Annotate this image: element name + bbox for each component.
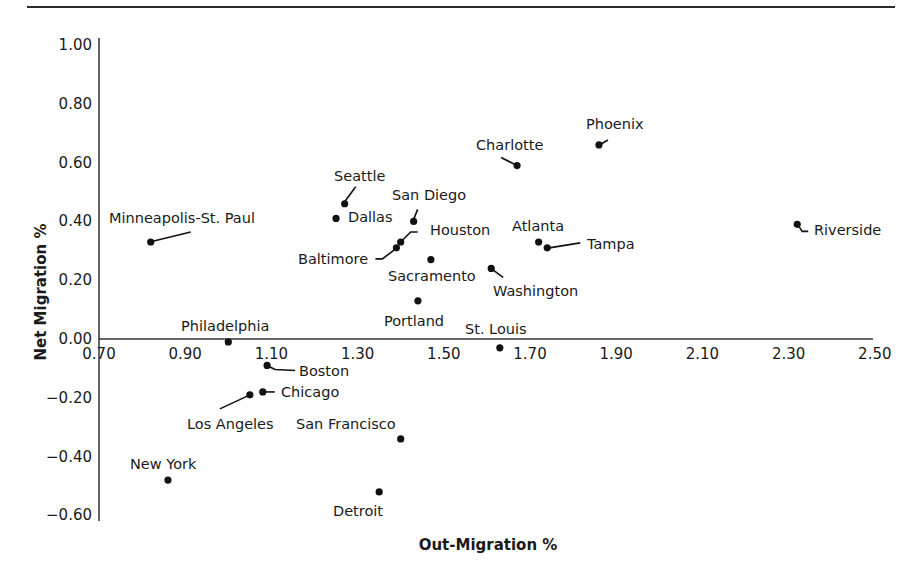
leader-line — [269, 366, 295, 370]
point-label: San Diego — [392, 187, 466, 203]
data-point — [488, 265, 495, 272]
x-tick-label: 2.30 — [772, 345, 805, 363]
data-point — [595, 141, 602, 148]
data-point — [397, 435, 404, 442]
data-point — [246, 391, 253, 398]
y-tick-label: −0.60 — [46, 506, 92, 524]
axes — [99, 38, 873, 521]
point-label: Washington — [493, 283, 578, 299]
point-label: Boston — [299, 363, 349, 379]
point-label: Charlotte — [476, 137, 543, 153]
point-label: Atlanta — [512, 218, 564, 234]
x-tick-label: 2.10 — [686, 345, 719, 363]
data-point — [414, 297, 421, 304]
leader-lines — [154, 140, 809, 409]
point-label: Phoenix — [586, 116, 644, 132]
x-tick-label: 1.90 — [599, 345, 632, 363]
point-label: Philadelphia — [181, 318, 269, 334]
leader-line — [345, 187, 356, 202]
data-point — [341, 200, 348, 207]
y-tick-label: 0.60 — [59, 154, 92, 172]
scatter-chart: 1.000.800.600.400.200.00−0.20−0.40−0.60 … — [0, 0, 916, 578]
x-tick-label: 1.30 — [341, 345, 374, 363]
point-label: St. Louis — [465, 321, 527, 337]
point-label: New York — [130, 456, 197, 472]
leader-line — [549, 243, 580, 248]
point-label: Baltimore — [298, 251, 368, 267]
point-label: Riverside — [814, 222, 881, 238]
x-tick-labels: 0.700.901.101.301.501.701.902.102.302.50 — [82, 345, 891, 363]
y-axis-title: Net Migration % — [32, 224, 50, 361]
data-point — [259, 388, 266, 395]
point-label: Los Angeles — [187, 416, 274, 432]
point-label: Dallas — [348, 209, 393, 225]
y-tick-label: 0.80 — [59, 95, 92, 113]
data-point — [147, 238, 154, 245]
point-label: Sacramento — [388, 268, 476, 284]
point-label: Detroit — [333, 503, 383, 519]
data-point — [332, 215, 339, 222]
point-label: Minneapolis-St. Paul — [109, 210, 255, 226]
point-label: Chicago — [281, 384, 339, 400]
point-label: Houston — [430, 222, 490, 238]
x-tick-label: 1.50 — [427, 345, 460, 363]
data-point — [513, 162, 520, 169]
leader-line — [220, 396, 248, 409]
x-tick-label: 1.70 — [513, 345, 546, 363]
y-tick-labels: 1.000.800.600.400.200.00−0.20−0.40−0.60 — [46, 36, 92, 524]
point-labels: Minneapolis-St. PaulSeattleDallasSan Die… — [109, 116, 881, 519]
x-tick-label: 1.10 — [255, 345, 288, 363]
data-point — [496, 344, 503, 351]
x-axis-title: Out-Migration % — [419, 536, 558, 554]
data-point — [263, 362, 270, 369]
point-label: Tampa — [586, 236, 635, 252]
data-point — [164, 477, 171, 484]
data-point — [535, 238, 542, 245]
data-point — [544, 244, 551, 251]
y-tick-label: 1.00 — [59, 36, 92, 54]
data-point — [410, 218, 417, 225]
y-tick-label: −0.20 — [46, 389, 92, 407]
y-tick-label: −0.40 — [46, 448, 92, 466]
y-tick-label: 0.40 — [59, 212, 92, 230]
x-tick-label: 0.70 — [82, 345, 115, 363]
data-point — [427, 256, 434, 263]
point-label: San Francisco — [296, 416, 396, 432]
x-tick-label: 0.90 — [168, 345, 201, 363]
leader-line — [402, 232, 418, 241]
leader-line — [501, 158, 515, 165]
x-tick-label: 2.50 — [858, 345, 891, 363]
leader-line — [375, 250, 394, 259]
data-point — [393, 244, 400, 251]
data-point — [225, 338, 232, 345]
leader-line — [154, 232, 191, 241]
point-label: Seattle — [334, 168, 385, 184]
y-tick-label: 0.20 — [59, 271, 92, 289]
data-point — [376, 488, 383, 495]
data-point — [397, 238, 404, 245]
point-label: Portland — [384, 313, 444, 329]
data-point — [794, 221, 801, 228]
